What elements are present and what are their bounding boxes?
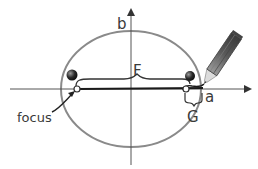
ellipse-diagram: b F a G focus <box>0 0 258 169</box>
right-focus-ring <box>183 86 189 92</box>
label-focus: focus <box>17 110 52 125</box>
right-pin-ball <box>185 71 195 81</box>
pencil-icon <box>199 30 243 87</box>
label-a: a <box>205 88 214 106</box>
left-pin-ball <box>67 70 78 81</box>
label-F: F <box>133 62 142 80</box>
label-G: G <box>187 108 199 126</box>
label-b: b <box>117 15 127 33</box>
